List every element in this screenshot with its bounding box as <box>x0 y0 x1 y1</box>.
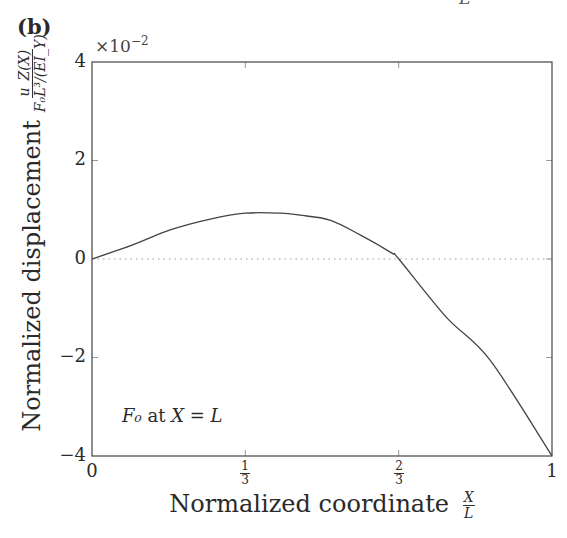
x-tick-two-thirds: 23 <box>384 460 414 487</box>
y-frac-num: u_Z(X) <box>17 49 33 98</box>
y-frac-den: F₀L³/(EI_Y) <box>33 34 48 112</box>
frac-num: 2 <box>394 460 404 474</box>
y-tick-0: 0 <box>46 247 86 268</box>
annot-force: F₀ <box>122 405 142 426</box>
frac-den: 3 <box>241 474 249 487</box>
y-axis-label: Normalized displacement u_Z(X) F₀L³/(EI_… <box>12 0 52 466</box>
y-axis-label-text: Normalized displacement <box>18 120 46 432</box>
x-frac-den: L <box>464 506 473 521</box>
y-tick-neg2: −2 <box>46 345 86 366</box>
annot-position: X = L <box>171 405 222 426</box>
y-tick-4: 4 <box>46 50 86 71</box>
y-axis-fraction: u_Z(X) F₀L³/(EI_Y) <box>17 34 48 112</box>
load-annotation: F₀ at X = L <box>122 405 222 426</box>
x-axis-label: Normalized coordinate X L <box>92 490 552 521</box>
frac-num: 1 <box>240 460 250 474</box>
x-tick-one-third: 13 <box>230 460 260 487</box>
x-tick-0: 0 <box>77 460 107 481</box>
x-axis-label-text: Normalized coordinate <box>169 490 449 518</box>
frac-den: 3 <box>395 474 403 487</box>
y-tick-2: 2 <box>46 148 86 169</box>
x-axis-fraction: X L <box>463 490 475 521</box>
annot-at: at <box>142 405 171 426</box>
x-tick-1: 1 <box>537 460 567 481</box>
x-frac-num: X <box>463 490 475 506</box>
